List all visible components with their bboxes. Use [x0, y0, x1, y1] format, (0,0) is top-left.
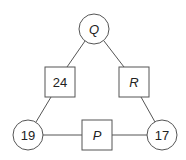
node-19: 19	[13, 120, 43, 150]
node-17: 17	[147, 120, 177, 150]
diagram-svg: Q 24 R 19 P 17	[0, 0, 186, 160]
edge-r-17	[141, 97, 155, 122]
node-r: R	[119, 67, 149, 97]
node-p: P	[82, 120, 112, 150]
label-q: Q	[89, 22, 99, 37]
label-p: P	[93, 128, 102, 143]
edge-q-r	[104, 41, 124, 67]
node-q: Q	[79, 14, 109, 44]
label-17: 17	[155, 128, 169, 143]
label-19: 19	[21, 128, 35, 143]
label-24: 24	[53, 75, 67, 90]
triangle-diagram: Q 24 R 19 P 17	[0, 0, 186, 160]
edge-24-19	[36, 97, 51, 122]
node-24: 24	[45, 67, 75, 97]
label-r: R	[129, 75, 138, 90]
edge-q-24	[67, 41, 85, 67]
